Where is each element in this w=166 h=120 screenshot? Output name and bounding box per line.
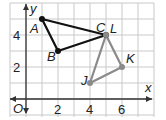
coordinate-plane: xy O24624 ABCJKL (0, 0, 166, 120)
vertex-a (39, 16, 45, 22)
vertex-label-b: B (47, 49, 56, 64)
vertex-b (55, 48, 61, 54)
vertex-label-l: L (110, 21, 117, 36)
vertex-j (87, 80, 93, 86)
triangles: ABCJKL (29, 16, 136, 88)
x-axis-label: x (144, 80, 152, 95)
x-tick-label: 4 (86, 102, 93, 117)
vertex-k (119, 64, 125, 70)
vertex-label-j: J (80, 73, 88, 88)
x-axis-arrow-icon (146, 96, 152, 102)
vertex-label-k: K (126, 51, 136, 66)
vertex-l (103, 32, 109, 38)
x-tick-label: 6 (118, 102, 125, 117)
vertex-label-a: A (29, 21, 39, 36)
x-tick-label: 2 (54, 102, 61, 117)
y-axis-arrow-down-icon (23, 108, 29, 114)
y-axis-arrow-icon (23, 4, 29, 10)
origin-label: O (13, 101, 23, 116)
y-tick-label: 4 (13, 28, 20, 43)
y-tick-label: 2 (13, 60, 20, 75)
